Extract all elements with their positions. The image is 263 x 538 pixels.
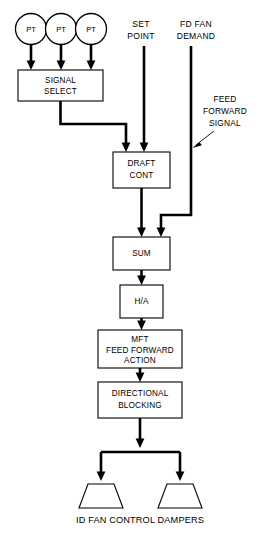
damper-right-arrowhead [176, 472, 185, 482]
signal-select-box [18, 70, 103, 101]
pt-2: PT [46, 14, 77, 45]
pt-1-label: PT [26, 25, 36, 34]
pt-3-label: PT [86, 25, 96, 34]
signal-select-to-draft-cont-arrow [61, 101, 131, 152]
fd-fan-demand-source: FD FAN DEMAND [157, 19, 216, 237]
draft-cont-to-sum-arrow [137, 188, 146, 237]
draft-cont-box [113, 152, 170, 188]
fd-fan-demand-label-line1: FD FAN [180, 19, 212, 29]
sum-label: SUM [132, 249, 151, 258]
fd-fan-demand-signal-line [161, 46, 191, 230]
directional-blocking-to-dampers-branch [97, 418, 185, 481]
pt-2-to-signal-select-arrow [57, 45, 66, 70]
flow-diagram-canvas: PT PT PT SIGNAL SELECT [0, 0, 263, 538]
mft-label-line3: ACTION [124, 356, 156, 365]
control-logic-diagram: PT PT PT SIGNAL SELECT [0, 0, 263, 538]
hand-auto: H/A [120, 285, 163, 318]
set-point-label-line2: POINT [127, 31, 155, 41]
damper-left [79, 484, 123, 508]
feed-forward-label-line1: FEED [213, 94, 236, 104]
signal-select-label-line2: SELECT [44, 87, 77, 96]
feed-forward-label-line2: FORWARD [203, 106, 247, 116]
pt-1-to-signal-select-arrow [27, 45, 36, 70]
sum-to-hand-auto-arrow [137, 270, 146, 285]
pt-1: PT [16, 14, 47, 45]
feed-forward-signal-annotation: FEED FORWARD SIGNAL [192, 94, 247, 148]
draft-cont-label-line2: CONT [130, 171, 154, 180]
directional-blocking-label-line2: BLOCKING [118, 401, 162, 410]
hand-auto-to-mft-arrow [137, 318, 146, 330]
pt-2-label: PT [56, 25, 66, 34]
set-point-label-line1: SET [132, 19, 150, 29]
pt-3-to-signal-select-arrow [87, 45, 96, 70]
set-point-source: SET POINT [127, 19, 155, 152]
feed-forward-leader-line [196, 131, 214, 145]
damper-left-arrowhead [97, 472, 106, 482]
draft-cont-label-line1: DRAFT [127, 159, 155, 168]
draft-cont: DRAFT CONT [113, 152, 170, 188]
hand-auto-label: H/A [134, 297, 148, 306]
signal-select-label-line1: SIGNAL [45, 76, 76, 85]
fd-fan-demand-label-line2: DEMAND [177, 31, 215, 41]
dampers-caption: ID FAN CONTROL DAMPERS [76, 515, 204, 525]
mft-label-line1: MFT [131, 335, 148, 344]
signal-select: SIGNAL SELECT [18, 70, 103, 101]
damper-right [158, 484, 202, 508]
mft-label-line2: FEED FORWARD [106, 346, 174, 355]
directional-blocking-label-line1: DIRECTIONAL [112, 389, 169, 398]
pt-3: PT [76, 14, 107, 45]
directional-blocking: DIRECTIONAL BLOCKING [98, 382, 182, 418]
sum: SUM [113, 237, 170, 270]
feed-forward-label-line3: SIGNAL [209, 118, 241, 128]
mft-to-directional-blocking-arrow [136, 368, 145, 382]
mft-feed-forward-action: MFT FEED FORWARD ACTION [98, 330, 182, 368]
directional-blocking-box [98, 382, 182, 418]
feed-forward-leader-arrowhead [192, 142, 202, 148]
